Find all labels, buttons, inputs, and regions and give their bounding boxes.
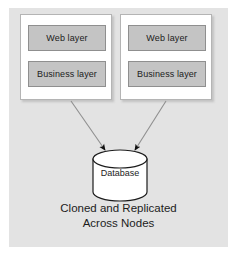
layer-box-business-right: Business layer — [128, 61, 206, 87]
caption-line-1: Cloned and Replicated — [9, 201, 228, 216]
node-box-right: Web layer Business layer — [120, 14, 212, 100]
layer-box-web-right: Web layer — [128, 25, 206, 51]
database-label: Database — [93, 168, 147, 178]
layer-label: Web layer — [146, 33, 187, 43]
diagram-canvas: Web layer Business layer Web layer Busin… — [0, 0, 240, 258]
layer-label: Business layer — [37, 69, 97, 79]
layer-box-web-left: Web layer — [28, 25, 106, 51]
layer-label: Business layer — [137, 69, 197, 79]
node-box-left: Web layer Business layer — [20, 14, 112, 100]
layer-box-business-left: Business layer — [28, 61, 106, 87]
layer-label: Web layer — [46, 33, 87, 43]
caption-line-2: Across Nodes — [9, 216, 228, 231]
diagram-caption: Cloned and Replicated Across Nodes — [9, 201, 228, 231]
